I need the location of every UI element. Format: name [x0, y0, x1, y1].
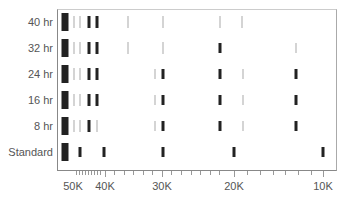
x-tick	[85, 171, 86, 175]
x-tick	[311, 171, 312, 175]
data-mark	[243, 69, 244, 79]
x-tick	[97, 171, 98, 175]
data-mark	[163, 42, 164, 54]
row-label: 24 hr	[28, 68, 53, 80]
data-mark	[97, 120, 98, 132]
data-mark	[96, 16, 99, 28]
row-label: Standard	[8, 146, 53, 158]
row-label: 32 hr	[28, 42, 53, 54]
row-label: 8 hr	[34, 120, 53, 132]
row-label: 40 hr	[28, 16, 53, 28]
spectral-bar-chart: 40 hr32 hr24 hr16 hr8 hrStandard 50K40K3…	[0, 0, 349, 202]
x-tick	[234, 171, 235, 177]
x-tick	[219, 171, 220, 175]
data-mark	[128, 16, 129, 28]
data-mark	[88, 42, 91, 54]
data-mark	[80, 94, 81, 106]
x-tick	[79, 171, 80, 175]
data-mark	[88, 120, 91, 132]
data-mark	[88, 94, 91, 106]
x-tick	[82, 171, 83, 175]
x-tick-label: 40K	[95, 180, 115, 192]
x-tick	[152, 171, 153, 175]
x-tick	[247, 171, 248, 175]
data-mark	[233, 147, 236, 157]
x-tick-label: 10K	[313, 180, 333, 192]
x-tick	[191, 171, 192, 175]
data-mark	[74, 42, 75, 54]
x-tick	[210, 171, 211, 175]
data-mark	[62, 91, 69, 109]
x-tick	[323, 171, 324, 177]
data-mark	[62, 65, 69, 83]
x-tick	[260, 171, 261, 175]
data-mark	[96, 94, 99, 106]
data-mark	[296, 43, 297, 53]
data-mark	[219, 69, 222, 79]
row-label: 16 hr	[28, 94, 53, 106]
data-mark	[80, 16, 81, 28]
data-mark	[162, 147, 165, 157]
x-tick	[114, 171, 115, 175]
data-mark	[80, 68, 81, 80]
x-tick	[88, 171, 89, 175]
data-mark	[295, 95, 298, 105]
x-tick	[162, 171, 163, 177]
data-mark	[62, 117, 69, 135]
data-mark	[219, 121, 222, 131]
data-mark	[295, 69, 298, 79]
data-mark	[295, 121, 298, 131]
data-mark	[80, 120, 81, 132]
data-mark	[74, 120, 75, 132]
data-mark	[62, 143, 69, 161]
x-tick	[143, 171, 144, 175]
x-tick	[181, 171, 182, 175]
x-tick-label: 30K	[152, 180, 172, 192]
data-mark	[128, 42, 129, 54]
data-mark	[80, 42, 81, 54]
data-mark	[219, 95, 222, 105]
data-mark	[96, 68, 99, 80]
data-mark	[162, 95, 165, 105]
data-mark	[74, 16, 75, 28]
plot-area	[57, 9, 337, 171]
data-mark	[155, 69, 156, 79]
data-mark	[62, 39, 69, 57]
x-tick-label: 50K	[63, 180, 83, 192]
data-mark	[155, 95, 156, 105]
data-mark	[220, 16, 221, 28]
data-mark	[242, 16, 243, 28]
data-mark	[163, 16, 164, 28]
data-mark	[88, 68, 91, 80]
x-tick-label: 20K	[224, 180, 244, 192]
x-tick	[171, 171, 172, 175]
data-mark	[96, 42, 99, 54]
data-mark	[162, 121, 165, 131]
data-mark	[79, 147, 82, 157]
x-tick	[124, 171, 125, 175]
x-tick	[133, 171, 134, 175]
data-mark	[243, 95, 244, 105]
data-mark	[243, 121, 244, 131]
data-mark	[219, 43, 222, 53]
x-tick	[105, 171, 106, 177]
x-tick	[94, 171, 95, 175]
x-tick	[298, 171, 299, 175]
x-tick	[273, 171, 274, 175]
data-mark	[155, 121, 156, 131]
data-mark	[62, 13, 69, 31]
data-mark	[74, 94, 75, 106]
data-mark	[74, 68, 75, 80]
data-mark	[322, 147, 325, 157]
x-tick	[100, 171, 101, 175]
data-mark	[162, 69, 165, 79]
x-tick	[76, 171, 77, 175]
data-mark	[103, 147, 106, 157]
x-tick	[91, 171, 92, 175]
x-tick	[285, 171, 286, 175]
data-mark	[88, 16, 91, 28]
x-tick	[200, 171, 201, 175]
